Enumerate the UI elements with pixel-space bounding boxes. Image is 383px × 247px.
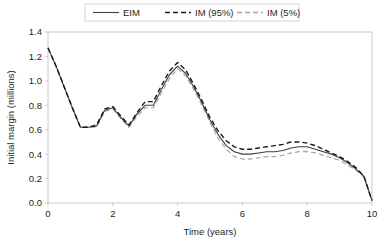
y-tick-label: 1.0 (29, 75, 42, 86)
initial-margin-line-chart: 0.00.20.40.60.81.01.21.4 0246810 Initial… (0, 0, 383, 247)
series-group (48, 48, 372, 201)
chart-container: 0.00.20.40.60.81.01.21.4 0246810 Initial… (0, 0, 383, 247)
legend-label: IM (95%) (195, 7, 234, 18)
x-tick-label: 0 (45, 208, 50, 219)
x-axis-title: Time (years) (184, 226, 237, 237)
y-tick-label: 0.8 (29, 100, 42, 111)
legend-label: IM (5%) (267, 7, 300, 18)
y-tick-label: 0.0 (29, 197, 42, 208)
x-tick-label: 10 (367, 208, 378, 219)
legend-label: EIM (123, 7, 140, 18)
x-tick-label: 4 (175, 208, 180, 219)
y-tick-label: 1.4 (29, 26, 42, 37)
y-tick-label: 0.2 (29, 173, 42, 184)
x-axis-ticks: 0246810 (45, 203, 377, 219)
chart-legend: EIMIM (95%)IM (5%) (85, 4, 300, 21)
series-line-im-95 (48, 48, 372, 201)
x-tick-label: 8 (305, 208, 310, 219)
x-tick-label: 2 (110, 208, 115, 219)
y-tick-label: 0.4 (29, 149, 42, 160)
y-tick-label: 0.6 (29, 124, 42, 135)
series-line-im-5 (48, 48, 372, 201)
y-tick-label: 1.2 (29, 51, 42, 62)
y-axis-ticks: 0.00.20.40.60.81.01.21.4 (29, 26, 48, 208)
y-axis-title: Initial margin (millions) (5, 70, 16, 165)
series-line-eim (48, 48, 372, 201)
x-tick-label: 6 (240, 208, 245, 219)
plot-area (48, 32, 372, 203)
